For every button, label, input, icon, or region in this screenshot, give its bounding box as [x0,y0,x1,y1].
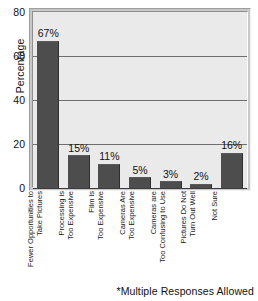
bar-slot: 5% [125,12,156,188]
bar-value-label: 67% [38,28,59,39]
category-label-line: Too Expensive [67,191,76,240]
category-label-line: Turn Out Well [189,191,198,237]
bar[interactable] [68,155,90,188]
bar-chart: Percentage 020406080 67%15%11%5%3%2%16% … [0,0,258,301]
bar-slot: 2% [186,12,217,188]
bar[interactable] [129,177,151,188]
x-axis-category-label: Not Sure [216,191,247,283]
bar-value-label: 2% [194,171,209,182]
category-label-line: Too Confusing to Use [159,191,168,263]
bar[interactable] [98,164,120,188]
bar-slot: 11% [94,12,125,188]
y-axis-tick-label: 20 [13,139,25,150]
y-axis-tick-label: 80 [13,7,25,18]
y-axis-tick-label: 60 [13,51,25,62]
bar-slot: 67% [33,12,64,188]
y-axis-tick-labels: 020406080 [0,11,28,188]
plot-area: 67%15%11%5%3%2%16% [33,12,247,188]
bar[interactable] [37,41,59,188]
category-label-line: Take Pictures [36,191,45,236]
bar-value-label: 3% [163,169,178,180]
bar[interactable] [190,184,212,188]
y-axis-tick-label: 0 [19,183,25,194]
y-axis-tick-label: 40 [13,95,25,106]
bar-value-label: 16% [221,140,242,151]
bar-slot: 3% [155,12,186,188]
bar-value-label: 15% [68,143,89,154]
category-label-line: Too Expensive [97,191,106,240]
bar-series: 67%15%11%5%3%2%16% [33,12,247,188]
footnote-multiple-responses: *Multiple Responses Allowed [116,285,254,297]
bar-value-label: 5% [132,165,147,176]
category-label-line: Too Expensive [128,191,137,240]
bar[interactable] [160,181,182,188]
category-label-line: Cameras are [150,191,159,234]
x-axis-category-labels: Fewer Opportunities toTake PicturesProce… [33,191,247,283]
bar-slot: 16% [216,12,247,188]
bar[interactable] [221,153,243,188]
axis-baseline [33,188,247,189]
category-label-line: Not Sure [211,191,220,221]
bar-value-label: 11% [99,151,119,162]
bar-slot: 15% [64,12,95,188]
